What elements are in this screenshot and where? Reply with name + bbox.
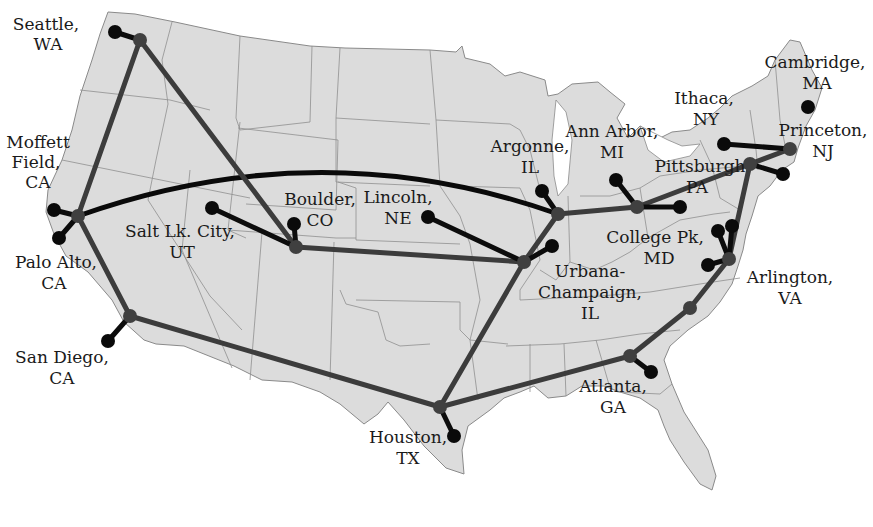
hub-node-annarbor[interactable] [630,200,644,214]
label-paloalto: Palo Alto,CA [15,252,97,293]
site-node-moffett[interactable] [47,203,61,217]
site-node-argonne[interactable] [535,184,549,198]
label-arlington: Arlington,VA [746,267,834,308]
hub-node-princeton[interactable] [783,142,797,156]
site-node-urbana[interactable] [545,239,559,253]
hub-node-atlanta[interactable] [623,349,637,363]
label-sandiego: San Diego,CA [15,347,109,388]
label-seattle: Seattle,WA [13,14,79,54]
site-node-arlington[interactable] [701,258,715,272]
hub-node-seattle[interactable] [133,33,147,47]
us-landmass [46,12,822,490]
site-node-ithaca[interactable] [717,137,731,151]
hub-node-va-relay[interactable] [683,301,697,315]
site-node-sandiego[interactable] [101,334,115,348]
hub-node-sandiego[interactable] [123,309,137,323]
site-node-annarbor[interactable] [609,173,623,187]
hub-node-argonne[interactable] [551,207,565,221]
site-node-cambridge[interactable] [801,100,815,114]
hub-node-urbana[interactable] [517,255,531,269]
hub-node-boulder[interactable] [289,240,303,254]
site-node-seattle[interactable] [108,25,122,39]
site-node-pittsburgh[interactable] [673,200,687,214]
hub-node-houston[interactable] [433,400,447,414]
hub-node-arlington[interactable] [722,252,736,266]
site-node-lincoln[interactable] [421,210,435,224]
us-network-map: Seattle,WA MoffettField,CA Palo Alto,CA … [0,0,873,527]
site-node-paloalto[interactable] [52,231,66,245]
site-node-princeton[interactable] [776,167,790,181]
site-node-boulder[interactable] [287,217,301,231]
site-node-saltlake[interactable] [205,201,219,215]
site-node-houston[interactable] [447,429,461,443]
us-outline [46,12,822,490]
hub-node-paloalto[interactable] [71,209,85,223]
site-node-collegepk-b[interactable] [725,219,739,233]
site-node-collegepk-a[interactable] [711,224,725,238]
